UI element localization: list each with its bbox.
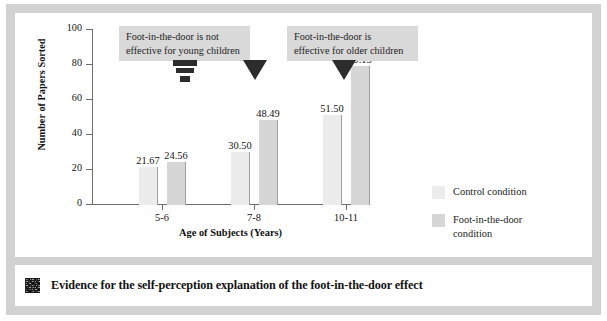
bar-control-5-6[interactable] — [139, 167, 158, 205]
bar-ftd-7-8[interactable] — [259, 120, 278, 205]
legend-swatch-ftd-icon — [432, 214, 445, 227]
y-tick-100: 100 — [86, 29, 92, 30]
x-tick-label-7-8: 7-8 — [226, 212, 282, 223]
legend-label-ftd: Foot-in-the-door condition — [453, 213, 522, 240]
y-tick-0: 0 — [86, 204, 92, 205]
y-tick-label-20: 20 — [72, 162, 82, 173]
y-tick-label-0: 0 — [77, 197, 82, 208]
chart-legend: Control condition Foot-in-the-door condi… — [432, 185, 527, 254]
y-tick-20: 20 — [86, 169, 92, 170]
legend-label-control: Control condition — [453, 185, 527, 199]
annotation-callout-not-effective: Foot-in-the-door is not effective for yo… — [119, 26, 250, 61]
y-tick-80: 80 — [86, 64, 92, 65]
bar-control-10-11[interactable] — [323, 115, 342, 205]
x-axis-title: Age of Subjects (Years) — [92, 227, 369, 238]
x-tick-label-5-6: 5-6 — [134, 212, 190, 223]
legend-swatch-control-icon — [432, 186, 445, 199]
bar-ftd-5-6[interactable] — [167, 162, 186, 205]
solid-down-triangle-icon-10-11 — [332, 60, 356, 80]
legend-item-control[interactable]: Control condition — [432, 185, 527, 199]
panel-divider — [15, 257, 592, 265]
x-tick-7-8 — [254, 205, 255, 210]
striped-down-triangle-icon — [173, 60, 197, 88]
figure-caption: Evidence for the self-perception explana… — [51, 278, 423, 293]
y-axis-line — [92, 29, 93, 205]
caption-panel: Evidence for the self-perception explana… — [15, 265, 592, 306]
bar-ftd-10-11[interactable] — [351, 66, 370, 205]
bar-label-ftd-7-8: 48.49 — [247, 108, 289, 119]
x-tick-label-10-11: 10-11 — [318, 212, 374, 223]
bar-label-ftd-5-6: 24.56 — [155, 150, 197, 161]
bar-control-7-8[interactable] — [231, 152, 250, 205]
chart-panel: Number of Papers Sorted 0 20 40 60 80 10… — [15, 13, 592, 257]
solid-down-triangle-icon-7-8 — [243, 60, 267, 80]
y-tick-60: 60 — [86, 99, 92, 100]
bar-label-control-7-8: 30.50 — [219, 140, 261, 151]
y-tick-40: 40 — [86, 134, 92, 135]
figure-root: Number of Papers Sorted 0 20 40 60 80 10… — [0, 0, 607, 321]
y-tick-label-80: 80 — [72, 57, 82, 68]
y-axis-title: Number of Papers Sorted — [36, 20, 47, 170]
y-tick-label-60: 60 — [72, 92, 82, 103]
bar-label-control-10-11: 51.50 — [311, 103, 353, 114]
legend-item-ftd[interactable]: Foot-in-the-door condition — [432, 213, 527, 240]
x-tick-5-6 — [162, 205, 163, 210]
plot-area: Number of Papers Sorted 0 20 40 60 80 10… — [15, 13, 592, 257]
y-tick-label-40: 40 — [72, 127, 82, 138]
x-tick-10-11 — [346, 205, 347, 210]
y-tick-label-100: 100 — [67, 22, 82, 33]
halftone-square-icon — [25, 278, 40, 293]
annotation-callout-effective: Foot-in-the-door is effective for older … — [287, 26, 418, 61]
